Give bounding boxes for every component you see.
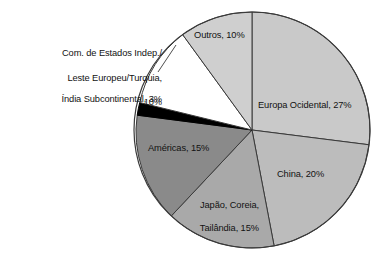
slice-label-china: China, 20%: [277, 169, 324, 181]
slice-label-americas: Américas, 15%: [148, 143, 209, 155]
slice-label-europa-ocidental: Europa Ocidental, 27%: [258, 100, 352, 112]
slice-label-cis-line2: Leste Europeu/Turquia,: [67, 73, 162, 83]
slice-label-japao-coreia-tailandia: Japão, Coreia, Tailândia, 15%: [190, 188, 259, 246]
pie-chart: Europa Ocidental, 27% China, 20% Japão, …: [0, 0, 386, 258]
slice-label-com-estados-indep-leste-europeu-turquia: Com. de Estados Indep./ Leste Europeu/Tu…: [14, 35, 162, 120]
slice-label-india-subcontinental: Índia Subcontinental, 3%: [10, 93, 162, 105]
slice-label-japao-line1: Japão, Coreia,: [200, 200, 259, 210]
pie-slice-europa-ocidental[interactable]: [252, 12, 370, 145]
slice-label-outros: Outros, 10%: [194, 30, 245, 42]
slice-label-japao-line2: Tailândia, 15%: [200, 223, 259, 233]
slice-label-cis-line1: Com. de Estados Indep./: [62, 48, 162, 58]
